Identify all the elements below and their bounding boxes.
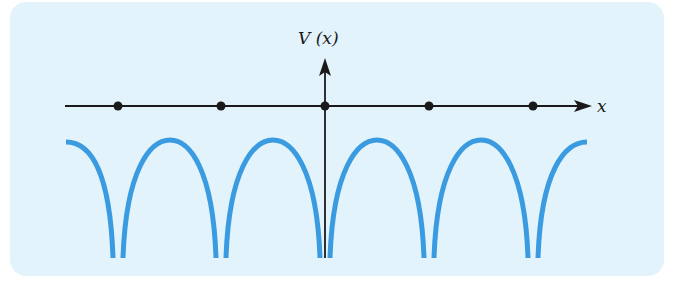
y-axis [319, 58, 331, 258]
lattice-point [425, 102, 434, 111]
potential-diagram: V (x) x [0, 0, 674, 285]
lattice-point [321, 102, 330, 111]
y-axis-label: V (x) [298, 28, 339, 48]
lattice-point [529, 102, 538, 111]
potential-curve [66, 140, 587, 258]
lattice-point [114, 102, 123, 111]
x-axis-label: x [597, 96, 607, 116]
lattice-point [217, 102, 226, 111]
